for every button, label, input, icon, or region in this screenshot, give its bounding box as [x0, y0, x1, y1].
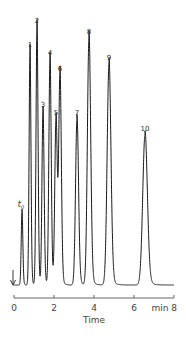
peak-label-9: 9: [107, 54, 111, 62]
peak-label-3: 3: [41, 101, 45, 109]
injection-arrow-icon: [11, 270, 16, 285]
peak-label-10: 10: [141, 125, 150, 133]
peak-label-t0: t0: [18, 200, 24, 210]
peak-label-2: 2: [35, 17, 39, 25]
peak-label-7: 7: [75, 109, 79, 117]
peak-label-6: 6: [58, 65, 63, 73]
x-tick-6: 6: [131, 303, 137, 313]
chromatogram: t012345678910 0 2 4 6 min 8 Time: [0, 0, 186, 338]
peak-label-5: 5: [54, 109, 58, 117]
x-tick-0: 0: [11, 303, 17, 313]
peak-label-1: 1: [28, 41, 32, 49]
signal-line: [13, 19, 174, 285]
x-tick-8: min 8: [151, 303, 177, 313]
x-tick-4: 4: [91, 303, 97, 313]
x-axis: 0 2 4 6 min 8 Time: [11, 295, 177, 325]
peak-label-8: 8: [87, 28, 91, 36]
x-tick-2: 2: [51, 303, 57, 313]
x-axis-label: Time: [82, 315, 105, 325]
peak-label-4: 4: [48, 49, 53, 57]
chromatogram-trace: [13, 19, 174, 285]
